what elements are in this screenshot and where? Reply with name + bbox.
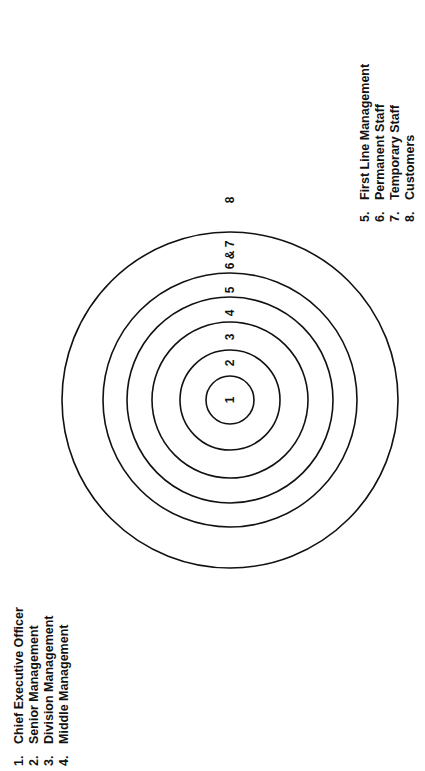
legend-item: 4.Middle Management bbox=[57, 607, 72, 766]
legend-label: Chief Executive Officer bbox=[12, 607, 27, 744]
legend-item: 8.Customers bbox=[403, 64, 418, 222]
legend-number: 2. bbox=[27, 744, 42, 766]
ring-label: 5 bbox=[223, 286, 237, 293]
ring-label: 4 bbox=[223, 309, 237, 316]
legend-label: Permanent Staff bbox=[373, 104, 388, 200]
legend-number: 7. bbox=[388, 200, 403, 222]
ring-label: 1 bbox=[223, 396, 237, 403]
legend-label: Division Management bbox=[42, 616, 57, 745]
ring-label: 6 & 7 bbox=[223, 240, 237, 269]
legend-item: 2.Senior Management bbox=[27, 607, 42, 766]
legend-item: 7.Temporary Staff bbox=[388, 64, 403, 222]
legend-item: 1.Chief Executive Officer bbox=[12, 607, 27, 766]
legend-number: 8. bbox=[403, 200, 418, 222]
ring-label: 8 bbox=[223, 196, 237, 203]
legend-item: 6.Permanent Staff bbox=[373, 64, 388, 222]
legend-label: Middle Management bbox=[57, 625, 72, 744]
legend-number: 1. bbox=[12, 744, 27, 766]
legend-label: Senior Management bbox=[27, 625, 42, 744]
ring-label: 2 bbox=[223, 359, 237, 366]
legend-label: Customers bbox=[403, 135, 418, 200]
legend-number: 4. bbox=[57, 744, 72, 766]
legend-right: 5.First Line Management 6.Permanent Staf… bbox=[358, 64, 418, 222]
ring-label: 3 bbox=[223, 333, 237, 340]
legend-left: 1.Chief Executive Officer 2.Senior Manag… bbox=[12, 607, 72, 766]
legend-number: 5. bbox=[358, 200, 373, 222]
legend-number: 6. bbox=[373, 200, 388, 222]
legend-item: 3.Division Management bbox=[42, 607, 57, 766]
legend-number: 3. bbox=[42, 744, 57, 766]
legend-item: 5.First Line Management bbox=[358, 64, 373, 222]
legend-label: First Line Management bbox=[358, 64, 373, 200]
legend-label: Temporary Staff bbox=[388, 105, 403, 200]
